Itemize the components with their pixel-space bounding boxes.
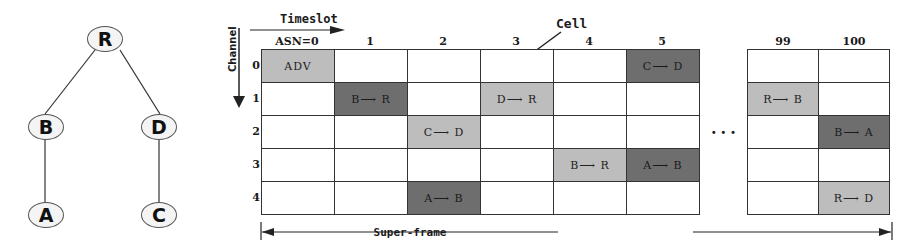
- cell-ch3-ts0: [261, 148, 335, 182]
- cell-ch0-ts0: ADV: [261, 49, 335, 83]
- cell-ch3-ts5: A⟶ B: [626, 148, 700, 182]
- cell-ch2-ts1: [334, 115, 408, 149]
- cell-ch3-ts3: [480, 148, 554, 182]
- cell-ch3-ts100: [818, 148, 890, 182]
- tree-node-d: D: [141, 114, 177, 140]
- cell-ch0-ts2: [407, 49, 481, 83]
- cell-link-label: D⟶ R: [497, 93, 537, 106]
- cell-ch1-ts100: [818, 82, 890, 116]
- cell-ch1-ts2: [407, 82, 481, 116]
- cell-ch2-ts3: [480, 115, 554, 149]
- cell-ch0-ts3: [480, 49, 554, 83]
- cell-ch4-ts5: [626, 181, 700, 215]
- cell-ch2-ts100: B⟶ A: [818, 115, 890, 149]
- row-label-0: 0: [251, 59, 261, 72]
- cell-ch2-ts99: [747, 115, 819, 149]
- cell-ch0-ts100: [818, 49, 890, 83]
- channel-arrow-icon: [232, 28, 246, 110]
- tree-node-b: B: [28, 114, 64, 140]
- row-label-4: 4: [251, 191, 261, 204]
- cell-link-label: ADV: [284, 60, 312, 73]
- cell-link-label: C⟶ D: [643, 60, 684, 73]
- tree-node-c: C: [141, 202, 177, 228]
- column-label-2: 2: [407, 35, 479, 48]
- cell-link-label: B⟶ A: [834, 126, 873, 139]
- row-label-2: 2: [251, 125, 261, 138]
- cell-ch1-ts1: B⟶ R: [334, 82, 408, 116]
- cell-ch1-ts4: [553, 82, 627, 116]
- cell-ch1-ts99: R⟶ B: [747, 82, 819, 116]
- cell-link-label: B⟶ R: [570, 159, 610, 172]
- cell-ch0-ts5: C⟶ D: [626, 49, 700, 83]
- row-label-3: 3: [251, 158, 261, 171]
- row-label-1: 1: [251, 92, 261, 105]
- cell-link-label: A⟶ B: [424, 192, 463, 205]
- cell-link-label: A⟶ B: [643, 159, 682, 172]
- cell-ch4-ts2: A⟶ B: [407, 181, 481, 215]
- cell-ch4-ts3: [480, 181, 554, 215]
- cell-ch0-ts99: [747, 49, 819, 83]
- superframe-label: Super-frame: [330, 226, 490, 239]
- cell-callout-label: Cell: [556, 16, 587, 31]
- tree-node-r: R: [87, 26, 123, 52]
- cell-ch0-ts4: [553, 49, 627, 83]
- column-label-asn0: ASN=0: [261, 35, 333, 48]
- cell-ch2-ts5: [626, 115, 700, 149]
- cell-ch1-ts3: D⟶ R: [480, 82, 554, 116]
- cell-ch2-ts4: [553, 115, 627, 149]
- cell-ch3-ts99: [747, 148, 819, 182]
- timeslot-axis-label: Timeslot: [280, 12, 338, 26]
- cell-ch0-ts1: [334, 49, 408, 83]
- cell-ch3-ts2: [407, 148, 481, 182]
- cell-ch4-ts99: [747, 181, 819, 215]
- column-label-5: 5: [626, 35, 698, 48]
- cell-link-label: R⟶ D: [834, 192, 874, 205]
- cell-ch4-ts4: [553, 181, 627, 215]
- tree-node-a: A: [28, 202, 64, 228]
- column-label-1: 1: [334, 35, 406, 48]
- column-label-3: 3: [480, 35, 552, 48]
- column-label-4: 4: [553, 35, 625, 48]
- cell-link-label: R⟶ B: [763, 93, 803, 106]
- column-label-100: 100: [818, 35, 890, 48]
- cell-ch1-ts5: [626, 82, 700, 116]
- cell-ch4-ts0: [261, 181, 335, 215]
- cell-ch4-ts1: [334, 181, 408, 215]
- cell-link-label: C⟶ D: [424, 126, 465, 139]
- ellipsis: ...: [711, 119, 740, 138]
- cell-ch2-ts2: C⟶ D: [407, 115, 481, 149]
- cell-link-label: B⟶ R: [351, 93, 391, 106]
- cell-ch1-ts0: [261, 82, 335, 116]
- column-label-99: 99: [747, 35, 819, 48]
- cell-ch3-ts1: [334, 148, 408, 182]
- cell-ch3-ts4: B⟶ R: [553, 148, 627, 182]
- cell-ch4-ts100: R⟶ D: [818, 181, 890, 215]
- timeslot-arrow-icon: [250, 25, 345, 35]
- cell-ch2-ts0: [261, 115, 335, 149]
